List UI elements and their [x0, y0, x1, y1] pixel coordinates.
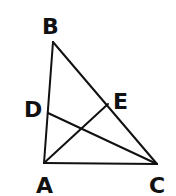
label-e: E: [113, 89, 128, 114]
segment-ac: [44, 163, 157, 164]
triangle-figure: B D E A C: [0, 0, 176, 196]
geometry-diagram: B D E A C: [0, 0, 176, 196]
label-b: B: [42, 14, 59, 39]
label-a: A: [36, 173, 53, 196]
label-c: C: [149, 173, 165, 196]
segment-bc: [53, 42, 157, 164]
segment-ab: [44, 42, 53, 163]
segment-dc: [48, 113, 157, 164]
label-d: D: [24, 97, 42, 122]
segment-ae: [44, 104, 108, 163]
